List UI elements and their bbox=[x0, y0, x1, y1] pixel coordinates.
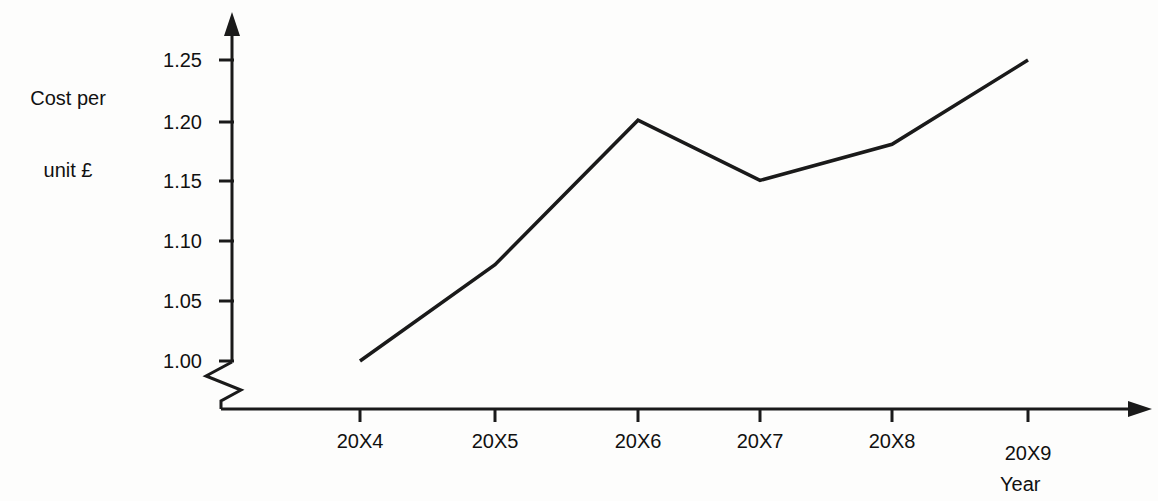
x-axis-ticks bbox=[360, 409, 1028, 422]
x-tick-label-20X8: 20X8 bbox=[852, 430, 932, 452]
x-tick-label-20X7: 20X7 bbox=[720, 430, 800, 452]
x-axis-arrow-icon bbox=[1128, 401, 1152, 417]
line-chart: Cost per unit £ Year 1.25 1.20 1.15 1.10… bbox=[0, 0, 1158, 501]
y-axis-arrow-icon bbox=[224, 12, 240, 36]
y-axis-title-line2: unit £ bbox=[8, 158, 128, 182]
y-axis-break-zigzag-icon bbox=[206, 362, 241, 409]
y-tick-label-100: 1.00 bbox=[130, 350, 202, 372]
y-axis-title: Cost per unit £ bbox=[8, 38, 128, 230]
y-tick-label-120: 1.20 bbox=[130, 111, 202, 133]
x-tick-label-20X5: 20X5 bbox=[455, 430, 535, 452]
y-tick-label-125: 1.25 bbox=[130, 49, 202, 71]
x-axis-title: Year bbox=[1000, 472, 1040, 496]
y-tick-label-115: 1.15 bbox=[130, 170, 202, 192]
x-tick-label-20X4: 20X4 bbox=[320, 430, 400, 452]
y-tick-label-105: 1.05 bbox=[130, 290, 202, 312]
y-axis-title-line1: Cost per bbox=[8, 86, 128, 110]
x-tick-label-20X6: 20X6 bbox=[598, 430, 678, 452]
y-tick-label-110: 1.10 bbox=[130, 230, 202, 252]
x-tick-label-20X9: 20X9 bbox=[988, 442, 1068, 464]
data-series-line bbox=[360, 60, 1028, 361]
